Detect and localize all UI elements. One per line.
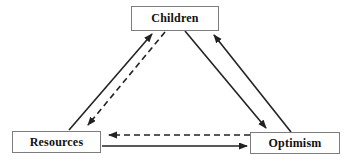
edge-resources-to-children bbox=[69, 34, 152, 130]
diagram-canvas: Children Resources Optimism bbox=[0, 0, 351, 163]
node-resources-label: Resources bbox=[30, 135, 84, 150]
node-resources: Resources bbox=[12, 131, 101, 153]
node-optimism-label: Optimism bbox=[269, 136, 322, 151]
edge-children-to-resources bbox=[88, 32, 165, 125]
node-children: Children bbox=[131, 6, 219, 31]
edge-optimism-to-children bbox=[214, 35, 291, 132]
edge-children-to-optimism bbox=[185, 31, 266, 128]
node-children-label: Children bbox=[151, 11, 198, 26]
node-optimism: Optimism bbox=[250, 132, 340, 154]
